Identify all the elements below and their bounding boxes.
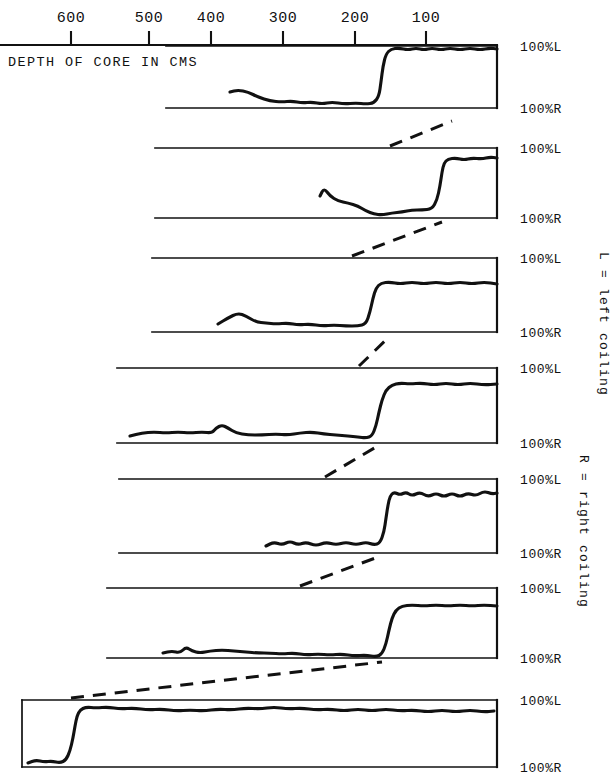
axis-tick-labels: 600500400300200100 (57, 10, 441, 27)
panel-4-label-top: 100%L (520, 362, 562, 377)
connector-1-2 (390, 121, 452, 146)
panel-1-label-top: 100%L (520, 40, 562, 55)
connector-3-4 (359, 337, 389, 366)
trace-panel-5 (266, 492, 497, 546)
connector-5-6 (300, 557, 378, 586)
panel-7-label-top: 100%L (520, 694, 562, 709)
trace-panel-4 (130, 383, 497, 437)
coiling-direction-chart: 600500400300200100 DEPTH OF CORE IN CMS … (0, 0, 613, 782)
figure-canvas: 600500400300200100 DEPTH OF CORE IN CMS … (0, 0, 613, 782)
panel-4-label-bottom: 100%R (520, 437, 562, 452)
depth-axis (0, 31, 497, 45)
panel-6-label-bottom: 100%R (520, 652, 562, 667)
axis-tick-label-100: 100 (412, 10, 441, 27)
trace-panel-7 (28, 707, 494, 763)
trace-panel-2 (320, 157, 497, 214)
panel-2-label-bottom: 100%R (520, 212, 562, 227)
panel-2-label-top: 100%L (520, 142, 562, 157)
panel-5-label-bottom: 100%R (520, 547, 562, 562)
connector-2-3 (352, 222, 442, 256)
connector-6-7 (71, 662, 382, 698)
axis-tick-label-400: 400 (197, 10, 226, 27)
panel-5-label-top: 100%L (520, 473, 562, 488)
axis-tick-label-300: 300 (269, 10, 298, 27)
panel-3-label-bottom: 100%R (520, 326, 562, 341)
trace-panel-1 (230, 48, 497, 103)
percent-labels: 100%L100%R100%L100%R100%L100%R100%L100%R… (520, 40, 562, 776)
axis-tick-label-200: 200 (341, 10, 370, 27)
axis-tick-label-600: 600 (57, 10, 86, 27)
panel-boxes (22, 46, 497, 767)
panel-3-label-top: 100%L (520, 252, 562, 267)
panel-7-label-bottom: 100%R (520, 761, 562, 776)
axis-tick-label-500: 500 (135, 10, 164, 27)
legend-left-coiling: L = left coiling (596, 252, 611, 396)
panel-6-label-top: 100%L (520, 582, 562, 597)
connector-4-5 (325, 447, 376, 477)
legend: L = left coilingR = right coiling (576, 252, 611, 608)
coiling-traces (28, 48, 497, 763)
trace-panel-3 (218, 282, 497, 326)
legend-right-coiling: R = right coiling (576, 455, 591, 608)
trace-panel-6 (163, 605, 497, 656)
panel-1-label-bottom: 100%R (520, 102, 562, 117)
axis-caption: DEPTH OF CORE IN CMS (8, 55, 198, 70)
